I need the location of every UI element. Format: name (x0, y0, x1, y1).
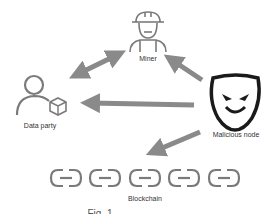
arrow-miner-dataparty (78, 55, 117, 74)
arrow-malicious-dataparty (90, 103, 194, 105)
malicious-node-label: Malicious node (213, 131, 260, 138)
arrow-malicious-miner (172, 60, 202, 80)
arrow-malicious-blockchain (155, 132, 200, 151)
diagram-canvas (0, 0, 276, 216)
miner-label: Miner (139, 55, 157, 62)
miner-icon (130, 12, 166, 52)
data-party-label: Data party (24, 122, 56, 129)
user-with-box-icon (17, 76, 66, 115)
chain-link-icon (51, 170, 239, 186)
evil-mask-icon (211, 75, 259, 130)
blockchain-label: Blockchain (128, 195, 162, 202)
